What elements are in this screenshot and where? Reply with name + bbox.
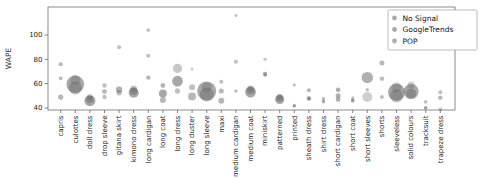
data-bubble bbox=[438, 90, 442, 94]
x-tick-label: long sleeve bbox=[203, 116, 211, 156]
x-tick-label: sleeveless bbox=[393, 115, 401, 152]
data-bubble bbox=[218, 98, 224, 104]
x-tick-label: culottes bbox=[72, 115, 80, 143]
data-bubble bbox=[439, 107, 443, 111]
x-tick-label: long dress bbox=[174, 115, 182, 151]
x-tick-label: trapeze dress bbox=[437, 115, 445, 163]
data-bubble bbox=[380, 95, 384, 99]
data-bubble bbox=[146, 54, 150, 58]
data-bubble bbox=[293, 83, 296, 86]
data-bubble bbox=[172, 76, 183, 87]
x-tick-label: patterned bbox=[276, 116, 284, 150]
data-bubble bbox=[307, 88, 311, 92]
data-bubble bbox=[102, 89, 107, 94]
data-bubble bbox=[219, 88, 224, 93]
x-tick-label: long duster bbox=[189, 115, 197, 155]
data-bubble bbox=[276, 95, 283, 102]
x-tick-label: short sleeves bbox=[364, 115, 372, 162]
x-tick-label: medium coat bbox=[247, 115, 255, 161]
data-bubble bbox=[351, 98, 354, 101]
data-bubble bbox=[191, 67, 194, 70]
data-bubble bbox=[264, 74, 267, 77]
data-bubble bbox=[188, 92, 196, 100]
data-bubble bbox=[366, 88, 370, 92]
legend-marker-dot bbox=[392, 27, 397, 32]
x-tick-label: tracksuit bbox=[422, 115, 430, 146]
x-tick-label: sheath dress bbox=[305, 115, 313, 160]
legend-marker-dot bbox=[392, 16, 397, 21]
data-bubble bbox=[362, 92, 372, 102]
x-tick-label: shirt dress bbox=[320, 115, 328, 152]
x-tick-label: long coat bbox=[159, 115, 167, 148]
data-bubble bbox=[424, 106, 427, 109]
x-tick-label: shorts bbox=[378, 115, 386, 137]
y-tick-label: 80 bbox=[34, 56, 43, 64]
data-bubble bbox=[59, 62, 63, 66]
data-bubble bbox=[247, 86, 255, 94]
data-bubble bbox=[380, 77, 385, 82]
data-bubble bbox=[424, 100, 428, 104]
data-bubble bbox=[263, 58, 266, 61]
data-bubble bbox=[102, 83, 106, 87]
data-bubble bbox=[336, 97, 341, 102]
x-tick-label: long cardigan bbox=[145, 116, 153, 164]
data-bubble bbox=[200, 88, 214, 102]
data-bubble bbox=[406, 88, 416, 98]
y-tick-label: 40 bbox=[34, 104, 43, 112]
legend-marker-dot bbox=[392, 39, 397, 44]
data-bubble bbox=[159, 89, 167, 97]
data-bubble bbox=[69, 81, 82, 94]
data-bubble bbox=[130, 87, 138, 95]
y-tick-label: 60 bbox=[34, 80, 43, 88]
legend-label: POP bbox=[403, 37, 418, 46]
data-bubble bbox=[117, 90, 122, 95]
y-axis-label: WAPE bbox=[4, 48, 13, 70]
chart-canvas: 406080100WAPEcaprisculottesdoll dressdro… bbox=[0, 0, 480, 193]
data-bubble bbox=[234, 60, 238, 64]
data-bubble bbox=[86, 96, 94, 104]
data-bubble bbox=[219, 80, 223, 84]
data-bubble bbox=[58, 94, 63, 99]
data-bubble bbox=[189, 84, 195, 90]
data-bubble bbox=[102, 95, 106, 99]
data-bubble bbox=[234, 14, 237, 17]
data-bubble bbox=[362, 72, 373, 83]
data-bubble bbox=[293, 105, 296, 108]
data-bubble bbox=[117, 45, 121, 49]
x-tick-label: kimono dress bbox=[130, 115, 138, 162]
data-bubble bbox=[390, 89, 403, 102]
x-tick-label: gitana skirt bbox=[116, 115, 124, 155]
data-bubble bbox=[175, 88, 180, 93]
x-tick-label: medium cardigan bbox=[232, 116, 240, 177]
x-tick-label: capris bbox=[57, 115, 65, 136]
x-tick-label: miniskirt bbox=[262, 115, 270, 146]
data-bubble bbox=[160, 97, 166, 103]
x-tick-label: maxi bbox=[218, 115, 226, 132]
data-bubble bbox=[379, 60, 384, 65]
x-tick-label: printed bbox=[291, 116, 299, 141]
wape-bubble-chart-figure: 406080100WAPEcaprisculottesdoll dressdro… bbox=[0, 0, 480, 193]
x-tick-label: doll dress bbox=[86, 115, 94, 149]
data-bubble bbox=[147, 28, 151, 32]
x-tick-label: drop sleeve bbox=[101, 116, 109, 157]
data-bubble bbox=[336, 87, 341, 92]
data-bubble bbox=[307, 97, 311, 101]
data-bubble bbox=[173, 64, 182, 73]
data-bubble bbox=[438, 95, 442, 99]
data-bubble bbox=[146, 75, 150, 79]
data-bubble bbox=[234, 89, 238, 93]
data-bubble bbox=[161, 83, 166, 88]
x-tick-label: short coat bbox=[349, 115, 357, 151]
data-bubble bbox=[322, 100, 325, 103]
x-tick-label: solid colours bbox=[408, 115, 416, 159]
legend-label: GoogleTrends bbox=[403, 25, 454, 34]
x-tick-label: short cardigan bbox=[335, 116, 343, 167]
data-bubble bbox=[59, 76, 63, 80]
y-tick-label: 100 bbox=[29, 31, 42, 39]
legend-label: No Signal bbox=[403, 14, 439, 23]
